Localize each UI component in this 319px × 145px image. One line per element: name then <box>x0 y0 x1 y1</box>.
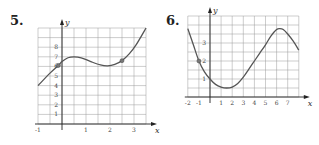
y-arrow-icon <box>208 7 212 13</box>
y-axis-label: y <box>212 6 218 15</box>
x-tick-label: 4 <box>252 99 256 106</box>
x-tick-label: -2 <box>185 99 191 106</box>
x-tick-label: 7 <box>286 99 290 106</box>
y-tick-label: 3 <box>202 39 206 46</box>
axes: xy-2-11234567123 <box>185 6 313 108</box>
x-tick-label: 5 <box>264 99 268 106</box>
x-tick-label: 6 <box>275 99 279 106</box>
y-tick-label: 1 <box>202 75 206 82</box>
x-axis-label: x <box>308 99 313 108</box>
x-tick-label: -1 <box>196 99 202 106</box>
x-tick-label: 2 <box>230 99 234 106</box>
chart-6: xy-2-11234567123 <box>0 0 319 145</box>
marked-point <box>197 59 201 63</box>
x-tick-label: 3 <box>241 99 245 106</box>
y-tick-label: 2 <box>202 57 206 64</box>
x-tick-label: 1 <box>219 99 223 106</box>
